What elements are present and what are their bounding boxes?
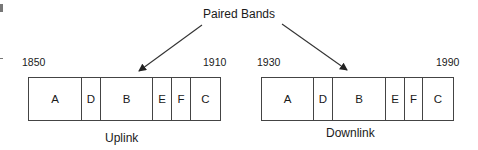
downlink-segment-b: B <box>333 78 386 120</box>
uplink-segment-f: F <box>172 78 191 120</box>
uplink-caption: Uplink <box>105 131 138 145</box>
downlink-segment-f: F <box>405 78 423 120</box>
downlink-start-frequency: 1930 <box>257 56 280 68</box>
downlink-caption: Downlink <box>326 126 375 140</box>
uplink-segment-b: B <box>101 78 153 120</box>
uplink-segment-a: A <box>29 78 82 120</box>
uplink-segment-d: D <box>82 78 101 120</box>
downlink-segment-c: C <box>423 78 453 120</box>
downlink-segment-a: A <box>262 78 314 120</box>
arrow-to-downlink <box>282 24 347 70</box>
downlink-segment-d: D <box>314 78 333 120</box>
uplink-segment-c: C <box>191 78 220 120</box>
arrows <box>0 0 478 150</box>
uplink-band-row: A D B E F C <box>28 77 221 121</box>
downlink-segment-e: E <box>386 78 405 120</box>
downlink-end-frequency: 1990 <box>436 56 459 68</box>
uplink-segment-e: E <box>153 78 172 120</box>
arrow-to-uplink <box>139 25 202 71</box>
downlink-band-row: A D B E F C <box>261 77 454 121</box>
uplink-start-frequency: 1850 <box>22 56 45 68</box>
uplink-end-frequency: 1910 <box>203 56 226 68</box>
